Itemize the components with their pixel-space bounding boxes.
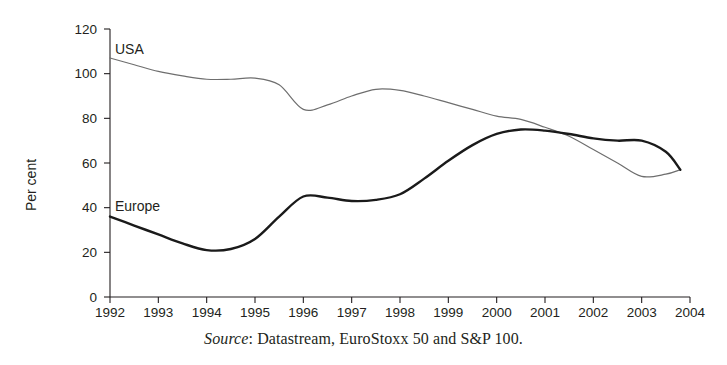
series-line-usa — [110, 58, 680, 177]
x-tick-label: 1993 — [143, 305, 173, 320]
y-tick-group: 020406080100120 — [74, 22, 110, 305]
y-tick-label: 80 — [82, 111, 97, 126]
x-tick-label: 2002 — [578, 305, 608, 320]
x-tick-label: 2003 — [627, 305, 657, 320]
source-label: Source — [204, 330, 248, 347]
x-tick-label: 1998 — [385, 305, 415, 320]
x-tick-group: 1992199319941995199619971998199920002001… — [95, 297, 706, 320]
x-tick-label: 1997 — [337, 305, 367, 320]
series-label-usa: USA — [115, 41, 144, 57]
x-tick-label: 1995 — [240, 305, 270, 320]
y-tick-label: 120 — [74, 22, 97, 37]
series-group — [110, 58, 680, 251]
x-tick-label: 1996 — [288, 305, 318, 320]
source-text: : Datastream, EuroStoxx 50 and S&P 100. — [249, 330, 523, 347]
y-tick-label: 40 — [82, 200, 97, 215]
x-tick-label: 2001 — [530, 305, 560, 320]
x-tick-label: 1999 — [433, 305, 463, 320]
y-axis-title: Per cent — [23, 159, 39, 211]
axes-group — [110, 29, 690, 297]
x-tick-label: 1992 — [95, 305, 125, 320]
x-tick-label: 2004 — [675, 305, 706, 320]
figure-container: 020406080100120 199219931994199519961997… — [0, 0, 727, 365]
source-caption: Source: Datastream, EuroStoxx 50 and S&P… — [0, 330, 727, 348]
y-tick-label: 100 — [74, 66, 97, 81]
line-chart: 020406080100120 199219931994199519961997… — [0, 0, 727, 330]
y-tick-label: 20 — [82, 245, 97, 260]
series-label-europe: Europe — [115, 198, 160, 214]
x-tick-label: 2000 — [482, 305, 512, 320]
series-line-europe — [110, 129, 680, 250]
y-tick-label: 0 — [89, 290, 97, 305]
y-tick-label: 60 — [82, 156, 97, 171]
x-tick-label: 1994 — [192, 305, 223, 320]
